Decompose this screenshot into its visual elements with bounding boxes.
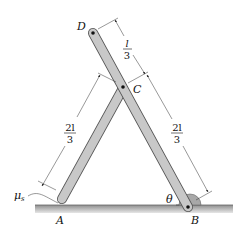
dim-cb-upper [147,75,172,119]
ladder-diagram: D C A B θ μ s l 3 2l 3 2l 3 [0,0,243,233]
label-d: D [76,20,86,33]
label-theta: θ [166,193,173,206]
pin-d [91,31,95,35]
ext-line-d [98,18,118,29]
ext-line-ac-bottom [38,181,56,190]
dim-ac-upper [77,75,100,117]
label-c: C [133,83,142,96]
dim-dc-upper [115,20,124,36]
dim-dc-lower [133,55,145,74]
dim-dc-denominator: 3 [124,50,130,61]
dim-dc-numerator: l [125,38,128,49]
label-mu-subscript: s [21,195,25,203]
dim-cb-lower [183,146,208,192]
dim-cb-denominator: 3 [174,134,180,145]
pin-c [121,85,125,89]
dim-ac-denominator: 3 [67,134,73,145]
dim-cb-numerator: 2l [172,122,182,133]
label-b: B [190,214,199,227]
label-a: A [55,214,64,227]
pin-b [186,205,190,209]
friction-leader [28,194,58,203]
dim-ac-lower [42,146,65,186]
ext-line-b [196,191,212,200]
ground-surface [35,205,233,213]
dim-ac-numerator: 2l [65,122,75,133]
